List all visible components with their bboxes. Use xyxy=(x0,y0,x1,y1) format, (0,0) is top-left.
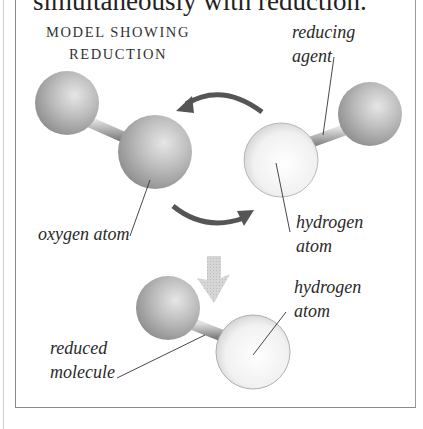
oxygen-atom-sphere xyxy=(118,115,192,189)
arrowhead-left-icon xyxy=(176,96,194,113)
curved-arrow-top xyxy=(186,95,262,112)
label-reduced-molecule: reduced molecule xyxy=(50,336,115,384)
leader-reducing-agent xyxy=(323,57,334,135)
label-line: reduced xyxy=(50,336,115,360)
label-hydrogen-atom-bottom: hydrogen atom xyxy=(294,275,361,323)
label-line: reducing xyxy=(292,20,355,44)
curved-arrow-bottom xyxy=(173,206,244,223)
label-line: molecule xyxy=(50,360,115,384)
reducing-agent-molecule xyxy=(244,82,402,197)
atom-sphere-gray xyxy=(338,82,402,146)
label-oxygen-atom: oxygen atom xyxy=(38,222,129,246)
label-line: agent xyxy=(292,44,355,68)
label-reducing-agent: reducing agent xyxy=(292,20,355,68)
label-line: atom xyxy=(294,299,361,323)
label-hydrogen-atom-top: hydrogen atom xyxy=(296,210,363,258)
leader-oxygen-atom xyxy=(130,180,150,236)
label-line: atom xyxy=(296,234,363,258)
leader-reduced-molecule xyxy=(117,335,205,378)
down-arrow-icon xyxy=(197,256,230,303)
left-molecule xyxy=(35,71,192,189)
label-line: hydrogen xyxy=(296,210,363,234)
label-line: hydrogen xyxy=(294,275,361,299)
oxygen-atom-sphere xyxy=(136,276,200,340)
hydrogen-atom-sphere xyxy=(216,315,290,389)
atom-sphere-gray xyxy=(35,71,99,135)
